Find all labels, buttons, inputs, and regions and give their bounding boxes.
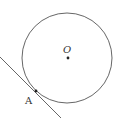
geometry-diagram: O A — [0, 0, 116, 118]
tangent-point-a — [35, 90, 38, 93]
tangent-line — [0, 57, 61, 118]
point-a-label: A — [24, 95, 33, 106]
center-point-o — [67, 57, 70, 60]
center-label: O — [63, 44, 71, 55]
